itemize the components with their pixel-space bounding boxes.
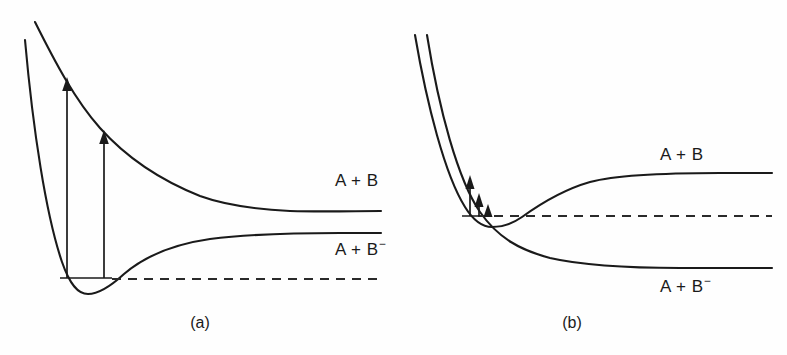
transition-arrow-2-b [475, 193, 484, 216]
transition-arrow-1-a [62, 77, 72, 278]
label-anion-asymptote-b: A + B− [660, 274, 711, 296]
label-anion-asymptote-a: A + B− [335, 237, 386, 259]
panel-a: A + B A + B− (a) [25, 22, 386, 331]
diagram-canvas: A + B A + B− (a) [0, 0, 787, 355]
curve-anion-bound-a [25, 40, 381, 294]
transition-arrow-3-head-b [484, 204, 493, 217]
panel-caption-a: (a) [190, 314, 210, 331]
label-neutral-asymptote-a: A + B [335, 171, 379, 190]
transition-arrow-1-head-a [62, 77, 72, 91]
potential-energy-diagram-figure: A + B A + B− (a) [0, 0, 787, 355]
panel-b: A + B A + B− (b) [415, 35, 772, 331]
curve-neutral-shallow-well-b [415, 35, 772, 227]
transition-arrow-2-head-b [475, 193, 484, 207]
label-neutral-asymptote-b: A + B [660, 145, 704, 164]
label-anion-sup-b: − [704, 274, 712, 288]
transition-arrow-2-a [99, 130, 109, 278]
curve-neutral-repulsive-a [35, 22, 381, 211]
transition-arrow-3-b [484, 204, 493, 217]
curve-anion-repulsive-b [427, 35, 772, 268]
label-anion-text-b: A + B [660, 277, 704, 296]
panel-caption-b: (b) [562, 314, 582, 331]
label-anion-sup-a: − [379, 237, 387, 251]
label-anion-text-a: A + B [335, 240, 379, 259]
label-neutral-text-b: A + B [660, 145, 704, 164]
transition-arrow-1-head-b [466, 175, 475, 189]
label-neutral-text-a: A + B [335, 171, 379, 190]
